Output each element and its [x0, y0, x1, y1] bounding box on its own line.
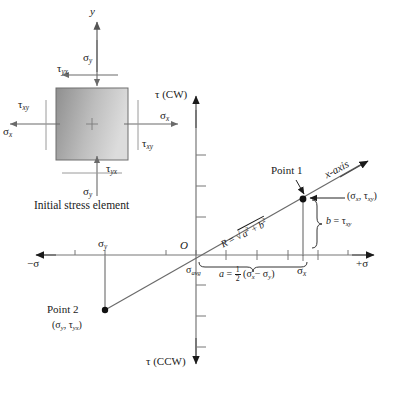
tau-ccw-axis-label: τ (CCW) [146, 356, 186, 367]
mohr-circle-figure: y σy τyx τxy σx σx τxy τyx σy Initial st… [0, 0, 399, 394]
stress-element-caption: Initial stress element [34, 200, 129, 212]
element-sigma-y-top-label: σy [83, 52, 92, 63]
tau-xy-sub: xy [146, 143, 152, 151]
coords-close: ) [79, 319, 82, 330]
equals-glyph: = [227, 268, 233, 279]
coords-open: (σ [52, 319, 61, 330]
coords-mid: , τ [359, 190, 368, 201]
sigma-y-sub: y [89, 57, 92, 65]
coords-close: ) [374, 190, 377, 201]
figure-vector-layer [0, 0, 399, 394]
a-glyph: a [219, 268, 224, 279]
element-sigma-y-bottom-label: σy [83, 186, 92, 197]
sigma-avg-label: σavg [186, 265, 201, 275]
element-tau-xy-right-label: τxy [142, 138, 153, 149]
point1-marker [300, 196, 307, 203]
minus-sigma: − σ [255, 268, 269, 279]
element-sigma-x-left-label: σx [3, 126, 12, 137]
tau-yx-sub: yx [110, 168, 116, 176]
one-half-fraction: 12 [235, 266, 241, 283]
sigma-x-sub: x [303, 270, 306, 278]
sigma-y-sub: y [268, 273, 271, 280]
element-tau-yx-top-label: τyx [57, 63, 68, 74]
sigma-x-sub: x [9, 131, 12, 139]
paren-close: ) [271, 268, 274, 279]
a-formula-label: a = 12 (σx− σy) [219, 266, 275, 283]
sigma-y-tick-label: σy [98, 238, 107, 249]
point2-coords-label: (σy, τyx) [52, 320, 82, 330]
stress-element-square [56, 88, 128, 160]
point2-label: Point 2 [47, 304, 78, 315]
b-brace [312, 200, 322, 248]
sigma-positive-axis-label: +σ [356, 258, 368, 269]
tau-yx-sub: yx [61, 68, 67, 76]
coords-mid: , τ [64, 319, 73, 330]
b-glyph: b [326, 215, 331, 226]
element-sigma-x-right-label: σx [160, 110, 169, 121]
point1-label: Point 1 [271, 165, 302, 176]
sigma-avg-sub: avg [191, 269, 201, 276]
coords-sub-y: y [61, 324, 64, 331]
paren-open-sigma: (σ [243, 268, 252, 279]
element-tau-xy-left-label: τxy [18, 99, 29, 110]
origin-label: O [180, 240, 188, 251]
coords-sub-x: x [356, 195, 359, 202]
point1-leader-line [296, 180, 304, 194]
fraction-denominator: 2 [235, 275, 241, 283]
tau-xy-sub: xy [22, 104, 28, 112]
element-y-axis-label: y [90, 6, 95, 17]
coords-open: (σ [347, 190, 356, 201]
sigma-negative-axis-label: −σ [27, 258, 39, 269]
sigma-x-sub: x [252, 273, 255, 280]
sigma-x-tick-label: σx [297, 265, 306, 276]
sigma-axis [36, 250, 374, 260]
tau-axis [196, 96, 206, 364]
tau-xy-sub: xy [346, 220, 352, 227]
b-formula-label: b = τxy [326, 216, 352, 226]
equals-tau: = τ [334, 215, 346, 226]
point2-marker [102, 307, 108, 313]
tau-cw-axis-label: τ (CW) [155, 89, 187, 100]
sigma-y-sub: y [89, 191, 92, 199]
coords-sub-yx: yx [73, 324, 79, 331]
point1-coords-label: (σx, τxy) [347, 191, 377, 201]
coords-sub-xy: xy [368, 195, 374, 202]
sigma-x-sub: x [166, 115, 169, 123]
element-tau-yx-bottom-label: τyx [106, 163, 117, 174]
sigma-y-sub: y [104, 243, 107, 251]
